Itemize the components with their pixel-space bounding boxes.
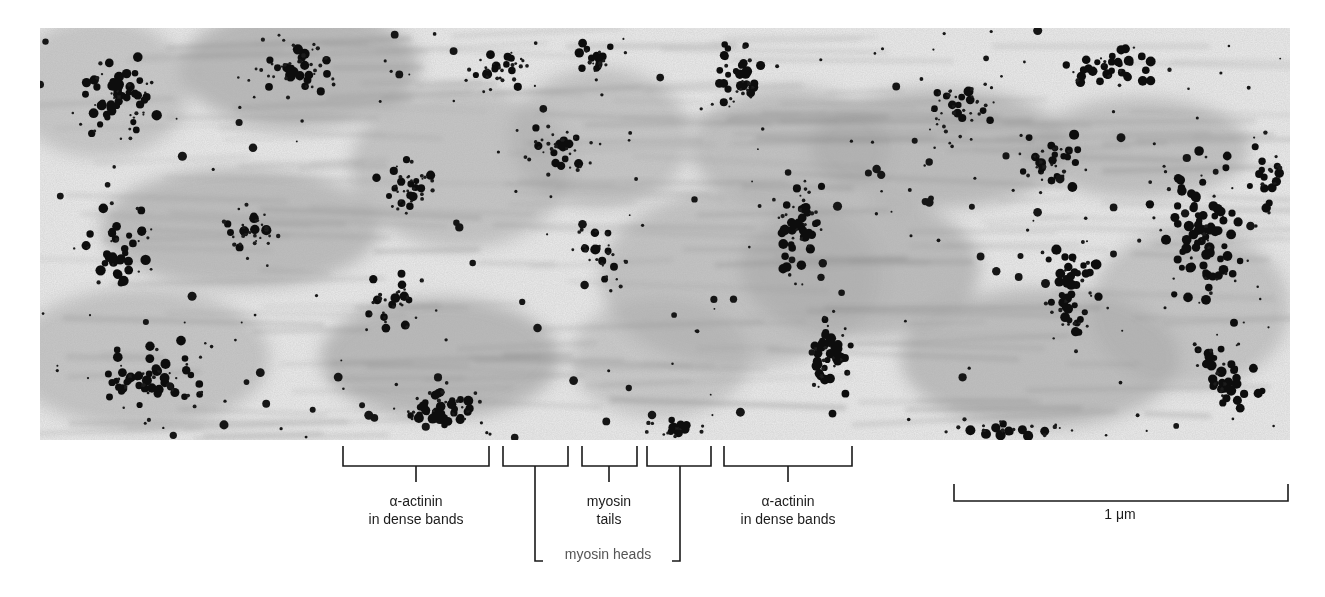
bracket-alpha-actinin-right: [724, 446, 852, 482]
bracket-myosin-heads-left: [503, 446, 568, 561]
label-line: in dense bands: [728, 510, 848, 528]
label-myosin-tails: myosin tails: [569, 492, 649, 528]
bracket-myosin-tails: [582, 446, 637, 482]
bracket-myosin-heads-right: [647, 446, 711, 561]
label-myosin-heads: myosin heads: [546, 545, 670, 563]
label-line: in dense bands: [356, 510, 476, 528]
label-line: α-actinin: [728, 492, 848, 510]
label-line: α-actinin: [356, 492, 476, 510]
label-line: tails: [569, 510, 649, 528]
label-alpha-actinin-right: α-actinin in dense bands: [728, 492, 848, 528]
scale-bar: [954, 484, 1288, 501]
figure: α-actinin in dense bands myosin tails my…: [0, 0, 1325, 597]
label-line: myosin: [569, 492, 649, 510]
scale-bar-label: 1 μm: [1080, 505, 1160, 523]
label-line: myosin heads: [546, 545, 670, 563]
label-line: 1 μm: [1080, 505, 1160, 523]
label-alpha-actinin-left: α-actinin in dense bands: [356, 492, 476, 528]
bracket-alpha-actinin-left: [343, 446, 489, 482]
